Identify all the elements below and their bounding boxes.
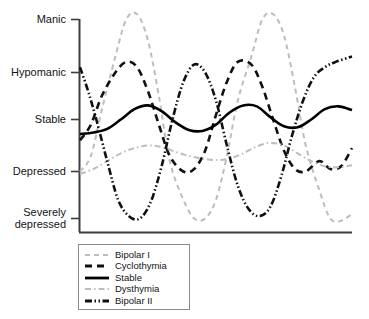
legend-swatch-dysthymia [84,284,110,294]
legend-swatch-stable [84,273,110,283]
series-line-bipolar-ii [80,57,352,220]
legend-item-cyclothymia: Cyclothymia [84,261,184,273]
legend-label-dysthymia: Dysthymia [115,284,159,294]
chart-legend: Bipolar I Cyclothymia Stable Dysthymia B… [78,244,190,310]
legend-label-stable: Stable [115,273,142,283]
legend-swatch-bipolar-ii [84,296,110,306]
series-layer [80,12,352,221]
legend-swatch-cyclothymia [84,261,110,271]
series-line-stable [80,105,352,134]
legend-item-dysthymia: Dysthymia [84,284,184,296]
legend-label-bipolar-ii: Bipolar II [115,296,153,306]
legend-label-bipolar-i: Bipolar I [115,250,150,260]
series-line-dysthymia [80,143,352,174]
legend-item-bipolar-ii: Bipolar II [84,295,184,307]
legend-item-bipolar-i: Bipolar I [84,249,184,261]
legend-item-stable: Stable [84,272,184,284]
legend-swatch-bipolar-i [84,250,110,260]
legend-label-cyclothymia: Cyclothymia [115,261,167,271]
mood-chart-figure: Manic Hypomanic Stable Depressed Severel… [0,0,369,319]
series-line-cyclothymia [80,60,352,172]
